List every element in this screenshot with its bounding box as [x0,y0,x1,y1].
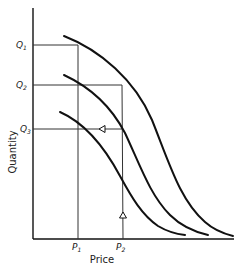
q3-label: Q3 [20,124,31,135]
p1-label: P1 [72,242,81,253]
p2-label: P2 [116,242,125,253]
demand-shift-diagram: Q1 Q2 Q3 P1 P2 Price Quantity [0,0,241,272]
middle-curve [64,75,208,235]
y-tick-labels: Q1 Q2 Q3 [16,40,31,135]
y-axis-title: Quantity [7,130,18,173]
guide-lines [33,45,123,239]
x-tick-labels: P1 P2 [72,242,125,253]
up-arrow-icon [120,212,127,218]
left-arrow-icon [99,126,105,133]
x-axis-title: Price [90,254,114,265]
q1-label: Q1 [16,40,27,51]
upper-curve [64,36,233,236]
curves [60,36,233,236]
q2-label: Q2 [16,80,27,91]
axes [33,8,234,239]
